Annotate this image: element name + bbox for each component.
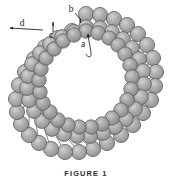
atom-sphere [85, 141, 100, 156]
atom-sphere [71, 144, 86, 159]
figure-caption: FIGURE 1 [0, 169, 172, 178]
label-b-text: b [69, 4, 74, 14]
label-a-text: a [81, 39, 86, 49]
atom-sphere [67, 28, 81, 42]
molecular-structure-diagram: d c b a [0, 0, 172, 179]
label-c-text: c [49, 30, 53, 40]
atom-sphere [145, 50, 160, 65]
label-d-text: d [20, 18, 25, 28]
label-c-tick [52, 22, 54, 26]
label-a-arrow-tail [86, 54, 91, 57]
label-d-arrow [10, 28, 43, 30]
atom-sphere [57, 144, 72, 159]
figure-container: d c b a FIGURE 1 [0, 0, 172, 179]
label-b-tick [80, 19, 82, 23]
